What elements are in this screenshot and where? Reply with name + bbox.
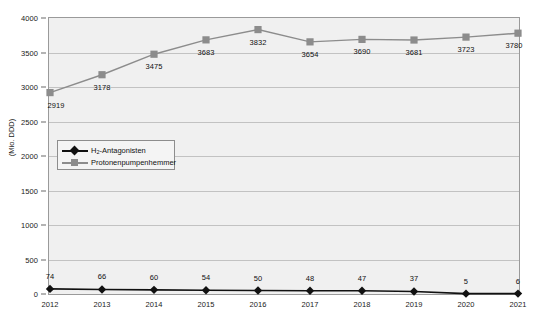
data-label: 3723 bbox=[457, 45, 474, 54]
gridline bbox=[49, 53, 519, 54]
x-axis-tick-label: 2015 bbox=[197, 300, 214, 309]
data-label: 66 bbox=[98, 272, 107, 281]
data-label: 3681 bbox=[405, 48, 422, 57]
data-label: 50 bbox=[254, 274, 263, 283]
data-label: 3654 bbox=[301, 50, 318, 59]
y-axis-tick-mark bbox=[41, 294, 46, 295]
legend-label-h2-antagonisten: H2-Antagonisten bbox=[88, 146, 146, 155]
gridline bbox=[49, 225, 519, 226]
data-label: 74 bbox=[46, 272, 55, 281]
x-axis-tick-label: 2016 bbox=[249, 300, 266, 309]
y-axis-tick-label: 2500 bbox=[21, 117, 38, 126]
x-axis-tick-label: 2012 bbox=[41, 300, 58, 309]
legend: H2-Antagonisten Protonenpumpenhemmer bbox=[57, 140, 175, 170]
data-label: 3683 bbox=[197, 48, 214, 57]
y-axis-tick-label: 1500 bbox=[21, 186, 38, 195]
gridline bbox=[49, 191, 519, 192]
data-label: 6 bbox=[516, 277, 520, 286]
data-label: 54 bbox=[202, 273, 211, 282]
data-label: 2919 bbox=[47, 101, 64, 110]
chart-container: 05001000150020002500300035004000 (Mio. D… bbox=[0, 0, 539, 325]
y-axis-tick-mark bbox=[41, 259, 46, 260]
legend-item-h2-antagonisten[interactable]: H2-Antagonisten bbox=[62, 144, 170, 156]
data-label: 47 bbox=[358, 274, 367, 283]
x-axis-tick-label: 2018 bbox=[353, 300, 370, 309]
data-label: 3690 bbox=[353, 47, 370, 56]
y-axis-tick-label: 0 bbox=[34, 290, 38, 299]
x-axis-tick-label: 2019 bbox=[405, 300, 422, 309]
x-axis-tick-label: 2014 bbox=[145, 300, 162, 309]
y-axis-tick-mark bbox=[41, 87, 46, 88]
x-axis-tick-label: 2017 bbox=[301, 300, 318, 309]
data-label: 3178 bbox=[93, 83, 110, 92]
data-label: 48 bbox=[306, 274, 315, 283]
gridline bbox=[49, 122, 519, 123]
x-axis-tick-label: 2021 bbox=[509, 300, 526, 309]
legend-label-protonenpumpenhemmer: Protonenpumpenhemmer bbox=[88, 158, 176, 167]
legend-square-marker-icon bbox=[62, 157, 88, 168]
legend-diamond-marker-icon bbox=[62, 145, 88, 156]
data-label: 37 bbox=[410, 274, 419, 283]
data-label: 5 bbox=[464, 277, 468, 286]
y-axis-tick-label: 4000 bbox=[21, 14, 38, 23]
y-axis-tick-label: 3500 bbox=[21, 48, 38, 57]
x-axis-tick-label: 2020 bbox=[457, 300, 474, 309]
gridline bbox=[49, 260, 519, 261]
data-label: 3832 bbox=[249, 38, 266, 47]
y-axis-tick-mark bbox=[41, 121, 46, 122]
y-axis-tick-label: 2000 bbox=[21, 152, 38, 161]
y-axis-tick-label: 500 bbox=[25, 255, 38, 264]
data-label: 3475 bbox=[145, 62, 162, 71]
y-axis-tick-mark bbox=[41, 18, 46, 19]
data-label: 60 bbox=[150, 273, 159, 282]
y-axis-tick-mark bbox=[41, 190, 46, 191]
x-axis-tick-label: 2013 bbox=[93, 300, 110, 309]
y-axis-tick-mark bbox=[41, 225, 46, 226]
y-axis-tick-label: 3000 bbox=[21, 83, 38, 92]
y-axis-tick-label: 1000 bbox=[21, 221, 38, 230]
data-label: 3780 bbox=[505, 41, 522, 50]
legend-item-protonenpumpenhemmer[interactable]: Protonenpumpenhemmer bbox=[62, 156, 170, 168]
gridline bbox=[49, 87, 519, 88]
y-axis-title: (Mio. DDD) bbox=[7, 83, 16, 193]
y-axis-tick-mark bbox=[41, 52, 46, 53]
y-axis-tick-mark bbox=[41, 156, 46, 157]
